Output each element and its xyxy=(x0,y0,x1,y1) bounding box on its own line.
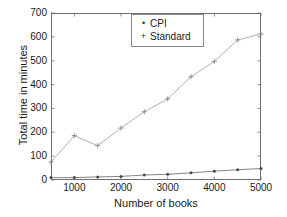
x-tick-label: 5000 xyxy=(238,183,284,193)
y-axis-label: Total time in minutes xyxy=(17,10,29,180)
x-axis-label: Number of books xyxy=(51,197,261,209)
legend-marker-dot-icon: • xyxy=(137,17,150,30)
legend-label-standard: Standard xyxy=(150,30,191,43)
x-axis-tick-labels: 10002000300040005000 xyxy=(0,183,287,197)
x-tick-label: 4000 xyxy=(191,183,237,193)
x-tick-label: 3000 xyxy=(145,183,191,193)
legend-item-standard: + Standard xyxy=(132,30,203,43)
legend-label-cpi: CPI xyxy=(150,17,167,30)
legend-marker-plus-icon: + xyxy=(137,30,150,43)
x-tick-label: 1000 xyxy=(51,183,97,193)
legend-item-cpi: • CPI xyxy=(132,17,203,30)
chart-figure: 0100200300400500600700 10002000300040005… xyxy=(0,0,287,217)
x-tick-label: 2000 xyxy=(98,183,144,193)
chart-legend: • CPI + Standard xyxy=(131,14,204,47)
